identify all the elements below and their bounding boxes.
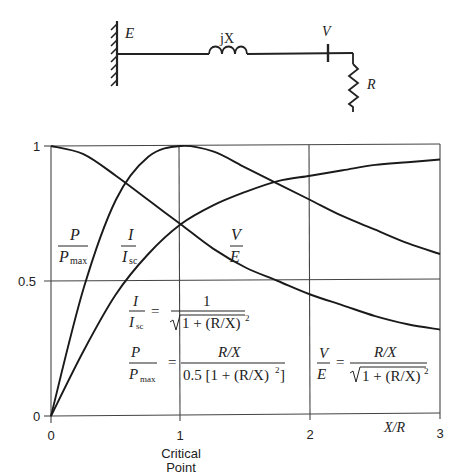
- svg-text:=: =: [168, 354, 176, 370]
- x-tick-3: 3: [436, 426, 443, 441]
- svg-text:P: P: [69, 226, 80, 243]
- figure: E jX V R 1 0.5 0 0 1 2 3 Critical Point …: [0, 0, 464, 474]
- svg-text:I: I: [121, 248, 128, 265]
- svg-text:V: V: [319, 345, 330, 361]
- y-tick-1: 1: [33, 139, 40, 154]
- x-axis-label: X/R: [383, 420, 405, 435]
- label-p-pmax: P P max: [58, 226, 88, 266]
- gridline-y05: [44, 279, 440, 281]
- curve-v-e: [51, 146, 440, 330]
- x-tick-0: 0: [47, 428, 54, 443]
- svg-text:P: P: [128, 366, 138, 382]
- svg-text:1 + (R/X): 1 + (R/X): [362, 368, 420, 385]
- y-tick-05: 0.5: [18, 274, 36, 289]
- svg-text:max: max: [140, 374, 156, 384]
- svg-text:P: P: [130, 344, 140, 360]
- voltage-label: V: [322, 24, 332, 39]
- label-i-isc: I I sc: [121, 226, 138, 266]
- svg-text:I: I: [128, 314, 135, 330]
- svg-text:E: E: [316, 366, 326, 382]
- svg-text:I: I: [127, 226, 134, 243]
- svg-text:=: =: [151, 303, 159, 319]
- svg-text:=: =: [336, 354, 344, 370]
- y-axis-ticks: 1 0.5 0: [18, 139, 40, 424]
- svg-text:R/X: R/X: [217, 344, 241, 360]
- formula-i: I I sc = 1 1 + (R/X) 2: [128, 293, 250, 332]
- svg-text:V: V: [231, 226, 243, 243]
- svg-text:I: I: [132, 293, 139, 309]
- svg-text:]: ]: [280, 367, 285, 383]
- resistor-icon: [349, 64, 358, 112]
- svg-text:max: max: [70, 255, 87, 266]
- svg-text:R/X: R/X: [373, 344, 397, 360]
- svg-text:1 + (R/X): 1 + (R/X): [182, 315, 240, 332]
- ground-wall-icon: [111, 21, 117, 86]
- x-tick-1: 1: [176, 428, 183, 443]
- formula-p: P P max = R/X 0.5 [1 + (R/X) 2 ]: [128, 344, 285, 384]
- svg-text:sc: sc: [129, 255, 138, 266]
- load-label: R: [366, 77, 376, 92]
- source-label: E: [124, 25, 134, 41]
- circuit-diagram: [111, 21, 358, 112]
- svg-text:1: 1: [203, 293, 211, 309]
- x-tick-2: 2: [306, 427, 313, 442]
- curve-labels: P P max I I sc V E: [58, 226, 243, 266]
- critical-point-label-2: Point: [166, 460, 196, 474]
- label-v-e: V E: [229, 226, 243, 265]
- critical-point-label: Critical: [161, 446, 201, 461]
- svg-text:E: E: [229, 248, 240, 265]
- reactance-label: jX: [219, 31, 234, 46]
- svg-text:P: P: [58, 248, 69, 265]
- wire-right: [247, 53, 353, 54]
- svg-text:0.5 [1 + (R/X): 0.5 [1 + (R/X): [183, 367, 269, 384]
- svg-text:sc: sc: [136, 321, 144, 331]
- svg-text:2: 2: [424, 366, 429, 376]
- svg-text:2: 2: [275, 365, 280, 375]
- y-tick-0: 0: [33, 409, 40, 424]
- svg-text:2: 2: [245, 313, 250, 323]
- formula-v: V E = R/X 1 + (R/X) 2: [316, 344, 429, 385]
- inductor-icon: [209, 47, 247, 55]
